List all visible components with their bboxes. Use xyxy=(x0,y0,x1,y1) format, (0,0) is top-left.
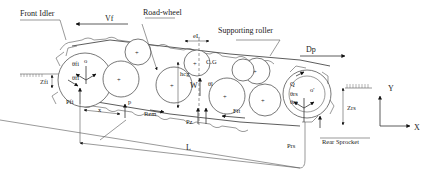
svg-text:+: + xyxy=(117,76,121,83)
supporting-roller-leader xyxy=(236,40,280,56)
inclined-ref xyxy=(100,120,126,140)
label-zrs: Zrs xyxy=(347,104,356,111)
svg-text:+: + xyxy=(193,60,197,67)
label-hcg: hcg xyxy=(180,70,190,77)
label-theta-rs-bottom: θrs xyxy=(290,98,298,105)
label-q: Q xyxy=(290,80,295,87)
svg-text:+: + xyxy=(135,49,139,56)
slope-line xyxy=(0,120,300,168)
label-theta-fi-top: θfi xyxy=(72,60,79,67)
svg-text:+: + xyxy=(170,82,174,89)
label-cg: C.G xyxy=(206,58,217,65)
label-road-wheel: Road-wheel xyxy=(143,8,182,17)
label-axis-x: X xyxy=(414,123,420,132)
supporting-rollers: + + + xyxy=(125,39,270,84)
label-zfi: Zfi xyxy=(40,78,48,85)
label-theta-l: θl xyxy=(208,80,213,87)
label-pfi: Pfi xyxy=(66,98,74,105)
label-supporting-roller: Supporting roller xyxy=(218,26,273,35)
label-o-prime: o' xyxy=(310,86,314,93)
label-dp: Dp xyxy=(306,45,316,54)
fit-arrow xyxy=(222,116,245,118)
track-diagram: + + + + + + + xyxy=(0,0,440,188)
x-dimension xyxy=(84,110,120,114)
label-prs: Prs xyxy=(287,142,296,149)
svg-text:+: + xyxy=(223,93,227,100)
ground-left xyxy=(20,74,60,77)
label-theta-rs-top: θrs xyxy=(290,90,298,97)
label-rear-sprocket: Rear Sprocket xyxy=(322,138,359,145)
label-o: o xyxy=(84,57,87,64)
label-pz: Pz xyxy=(186,118,193,125)
label-rzm: Rzm xyxy=(144,110,156,117)
ground-right xyxy=(345,84,372,88)
front-idler-leader xyxy=(20,20,66,40)
label-axis-y: Y xyxy=(388,84,394,93)
label-vf: Vf xyxy=(105,14,114,23)
label-fit: Fit xyxy=(233,107,240,114)
label-theta-fi-bottom: θfi xyxy=(72,74,79,81)
label-w: W xyxy=(190,81,198,90)
label-el: eL xyxy=(193,32,200,39)
label-front-idler: Front Idler xyxy=(20,9,55,18)
label-p: p xyxy=(128,98,131,105)
diagram-canvas: + + + + + + + xyxy=(0,0,440,188)
coordinate-axes xyxy=(380,96,410,126)
label-l: L xyxy=(186,143,191,152)
svg-text:+: + xyxy=(261,97,265,104)
l-right-ref xyxy=(300,122,305,168)
